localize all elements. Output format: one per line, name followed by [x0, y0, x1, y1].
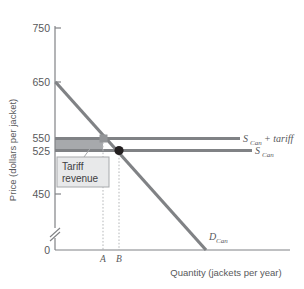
demand-can-label: D Can [208, 231, 228, 245]
y-tick-label-650: 650 [32, 76, 50, 88]
tariff-diagram: 750 650 550 525 450 0 A B Tariff revenue… [0, 0, 304, 289]
chart-canvas: 750 650 550 525 450 0 A B Tariff revenue… [0, 0, 304, 289]
y-tick-label-525: 525 [32, 145, 50, 157]
supply-can-plus-tariff-label-suffix: + tariff [264, 133, 294, 144]
supply-can-label: S Can [255, 145, 274, 159]
y-tick-label-750: 750 [32, 22, 50, 34]
axis-break-mark-upper [50, 228, 60, 237]
tariff-revenue-label-line2: revenue [62, 173, 99, 184]
y-tick-label-0: 0 [44, 244, 50, 256]
supply-can-plus-tariff-label: S Can + tariff [243, 133, 294, 147]
tariff-revenue-region [55, 139, 103, 150]
y-axis-title: Price (dollars per jacket) [7, 99, 18, 201]
tariff-equilibrium-marker [100, 135, 108, 143]
x-tick-label-a: A [99, 254, 106, 264]
supply-can-plus-tariff-label-main: S [243, 133, 248, 144]
demand-can-label-sub: Can [216, 237, 228, 245]
x-tick-label-b: B [116, 254, 122, 264]
supply-can-label-main: S [255, 145, 260, 156]
tariff-revenue-label-line1: Tariff [62, 161, 84, 172]
free-trade-equilibrium-marker [114, 146, 123, 155]
y-tick-label-550: 550 [32, 132, 50, 144]
y-tick-label-450: 450 [32, 188, 50, 200]
x-axis-title: Quantity (jackets per year) [170, 267, 281, 278]
supply-can-label-sub: Can [262, 151, 274, 159]
